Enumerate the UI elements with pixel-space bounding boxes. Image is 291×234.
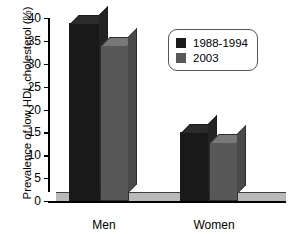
y-tick-label-10: 10 — [28, 149, 41, 161]
bar-women-1988-1994 — [180, 132, 209, 201]
bar-women-2003 — [209, 142, 238, 202]
bar-side-3d — [128, 28, 137, 193]
x-tick-label-men: Men — [92, 218, 115, 232]
bar-face — [210, 143, 237, 201]
y-tick-label-35: 35 — [28, 35, 41, 47]
bar-side-3d — [237, 125, 246, 194]
bar-men-1988-1994 — [69, 23, 100, 201]
legend-label-2003: 2003 — [193, 52, 219, 64]
dark-swatch-icon — [176, 38, 186, 48]
bar-face — [101, 46, 128, 200]
chart-legend: 1988-1994 2003 — [168, 29, 258, 71]
y-tick-label-25: 25 — [28, 81, 41, 93]
y-tick-label-0: 0 — [34, 195, 41, 207]
y-tick-label-40: 40 — [28, 12, 41, 24]
legend-entry-1988-1994: 1988-1994 — [176, 35, 248, 50]
y-tick-label-30: 30 — [28, 58, 41, 70]
gray-swatch-icon — [176, 53, 186, 63]
bar-face — [70, 24, 99, 200]
x-tick-label-women: Women — [193, 218, 234, 232]
bar-face — [181, 133, 208, 200]
y-tick-label-15: 15 — [28, 126, 41, 138]
bar-chart-figure: Prevalence of low HDL cholesterol (%) 0 … — [0, 0, 291, 234]
x-axis-line — [48, 201, 286, 203]
y-tick-label-20: 20 — [28, 104, 41, 116]
bar-men-2003 — [100, 45, 129, 201]
legend-entry-2003: 2003 — [176, 50, 248, 65]
legend-label-1988-1994: 1988-1994 — [193, 37, 248, 49]
y-tick-label-5: 5 — [34, 172, 41, 184]
